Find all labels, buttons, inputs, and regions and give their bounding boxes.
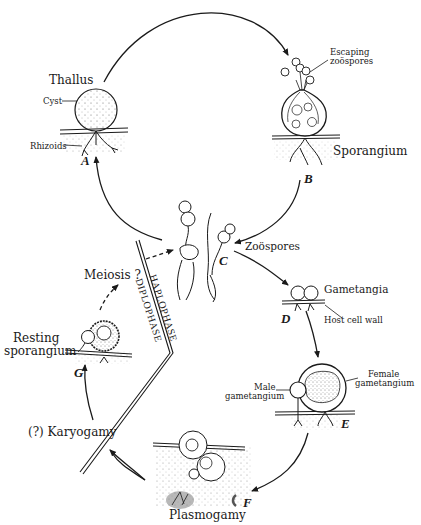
stage-letter-a: A [81, 153, 90, 169]
cyst [75, 89, 117, 131]
stage-letter-g: G [74, 365, 83, 381]
stage-letter-e: E [341, 416, 350, 432]
label-meiosis: Meiosis ? [84, 268, 141, 282]
male-gametangium [290, 382, 306, 398]
arrow-a-to-b [104, 13, 288, 82]
arrow-to-karyogamy-cross [110, 450, 145, 480]
arrow-g-to-meiosis-dashed [100, 285, 118, 310]
arrow-c-to-d [234, 251, 288, 285]
stage-f-plasmogamy [153, 431, 251, 509]
label-host-cell-wall: Host cell wall [324, 316, 383, 325]
stage-b-sporangium [272, 58, 340, 165]
label-cyst: Cyst [43, 97, 62, 106]
arrow-c-to-a [96, 157, 162, 240]
arrow-e-to-f [252, 433, 308, 491]
label-thallus: Thallus [49, 73, 93, 87]
stage-letter-c: C [219, 253, 228, 269]
stage-letter-f: F [243, 495, 252, 511]
label-karyogamy: (?) Karyogamy [28, 425, 116, 439]
arrow-karyogamy-to-g [85, 365, 93, 420]
label-sporangium: Sporangium [333, 144, 407, 158]
label-female-2: gametangium [355, 379, 414, 388]
label-zoospores: Zoöspores [245, 240, 300, 252]
label-resting-2: sporangium [4, 344, 76, 358]
label-plasmogamy: Plasmogamy [169, 508, 246, 522]
label-male-2: gametangium [225, 392, 284, 401]
stage-letter-d: D [281, 311, 290, 327]
arrow-b-to-c [235, 180, 300, 243]
label-gametangia: Gametangia [324, 283, 388, 295]
label-escaping-2: zoöspores [330, 57, 373, 66]
arrow-meiosis-to-c-dashed [146, 250, 173, 259]
stage-a-thallus [60, 89, 128, 156]
stage-letter-b: B [304, 171, 313, 187]
stage-c-zoospores [177, 201, 235, 302]
arrow-d-to-e [306, 311, 318, 357]
label-rhizoids: Rhizoids [30, 142, 67, 151]
label-resting-1: Resting [13, 331, 59, 345]
